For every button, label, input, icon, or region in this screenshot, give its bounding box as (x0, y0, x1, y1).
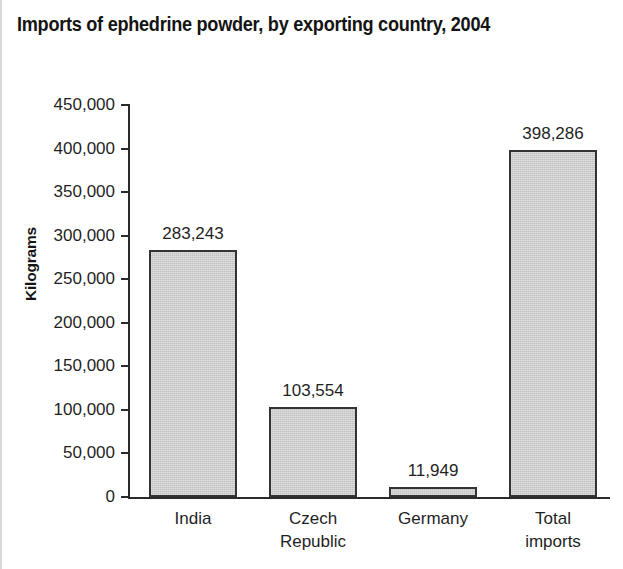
y-tick-label: 50,000 (15, 443, 115, 463)
plot-area: 050,000100,000150,000200,000250,000300,0… (130, 105, 610, 497)
x-category-label: Czech Republic (280, 507, 346, 553)
chart-title: Imports of ephedrine powder, by exportin… (17, 13, 490, 36)
y-tick-label: 350,000 (15, 182, 115, 202)
y-tick-mark (121, 235, 129, 237)
y-tick-label: 100,000 (15, 400, 115, 420)
y-tick-label: 200,000 (15, 313, 115, 333)
y-tick-mark (121, 104, 129, 106)
bar[interactable] (269, 407, 357, 497)
bar-value-label: 11,949 (408, 461, 459, 481)
bar-value-label: 103,554 (282, 381, 343, 401)
y-axis-line (128, 104, 130, 498)
y-tick-mark (121, 148, 129, 150)
bar-value-label: 398,286 (522, 124, 583, 144)
y-tick-mark (121, 452, 129, 454)
x-category-label: India (175, 507, 212, 530)
bar-value-label: 283,243 (162, 224, 223, 244)
y-tick-mark (121, 191, 129, 193)
bar[interactable] (149, 250, 237, 497)
bar-chart-figure: Imports of ephedrine powder, by exportin… (0, 0, 623, 569)
y-tick-label: 150,000 (15, 356, 115, 376)
y-tick-mark (121, 278, 129, 280)
y-tick-mark (121, 409, 129, 411)
x-category-label: Germany (398, 507, 468, 530)
y-tick-mark (121, 322, 129, 324)
y-tick-label: 250,000 (15, 269, 115, 289)
x-category-label: Total imports (525, 507, 582, 553)
y-tick-label: 0 (15, 487, 115, 507)
y-tick-label: 450,000 (15, 95, 115, 115)
x-axis-line (128, 497, 610, 499)
y-tick-mark (121, 496, 129, 498)
y-tick-label: 400,000 (15, 139, 115, 159)
bar[interactable] (389, 487, 477, 497)
y-tick-label: 300,000 (15, 226, 115, 246)
y-tick-mark (121, 365, 129, 367)
bar[interactable] (509, 150, 597, 497)
